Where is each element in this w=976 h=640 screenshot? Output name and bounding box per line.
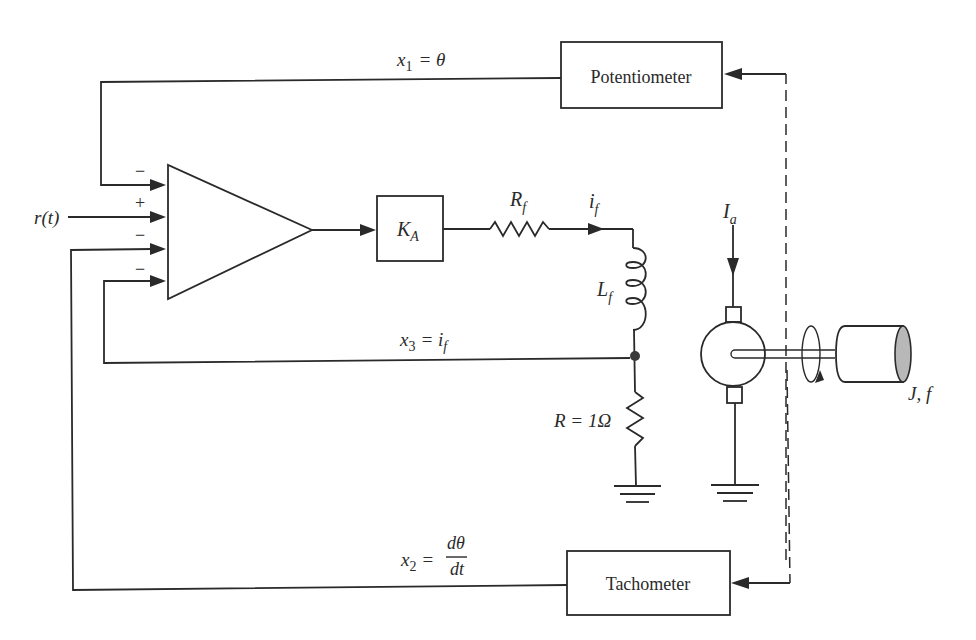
coil-inductor-icon	[626, 248, 646, 330]
amp-to-gain-path	[312, 224, 376, 236]
sign-x1: −	[135, 161, 145, 181]
reference-input: r(t)	[34, 207, 166, 229]
amplifier-triangle-icon	[168, 165, 312, 299]
x1-label: x1= θ	[396, 49, 445, 74]
potentiometer-label: Potentiometer	[591, 67, 692, 87]
sign-x2: −	[135, 225, 145, 245]
input-label: r(t)	[34, 207, 59, 229]
zigzag-resistor-icon	[490, 222, 549, 236]
ground-icon	[614, 486, 661, 502]
cylinder-load-icon	[836, 326, 911, 382]
lf-label: Lf	[596, 278, 614, 305]
rotation-arrow-icon	[802, 326, 824, 383]
tachometer-block[interactable]: Tachometer	[567, 551, 730, 615]
x2-denominator: dt	[450, 559, 465, 579]
x2-label: x2=	[400, 549, 433, 574]
x2-feedback-path	[71, 243, 567, 590]
if-label: if	[589, 190, 601, 217]
dc-motor-icon	[701, 225, 765, 485]
field-circuit-wire	[443, 222, 646, 486]
rf-label: Rf	[509, 188, 528, 215]
ia-label: Ia	[722, 200, 737, 227]
gain-block-ka[interactable]: KA	[377, 196, 443, 261]
potentiometer-block[interactable]: Potentiometer	[561, 42, 722, 108]
sign-input: +	[135, 193, 145, 213]
ground-icon	[711, 485, 759, 501]
x2-numerator: dθ	[447, 533, 465, 553]
load-label: J, f	[908, 383, 934, 404]
x3-label: x3= if	[399, 329, 449, 354]
sign-x3: −	[135, 259, 145, 279]
control-system-diagram: x1= θ Potentiometer − + − − r(t) KA	[0, 0, 976, 640]
zigzag-resistor-icon	[627, 392, 643, 446]
tachometer-label: Tachometer	[606, 574, 691, 594]
r-sense-label: R = 1Ω	[553, 410, 611, 431]
junction-node	[630, 351, 640, 361]
